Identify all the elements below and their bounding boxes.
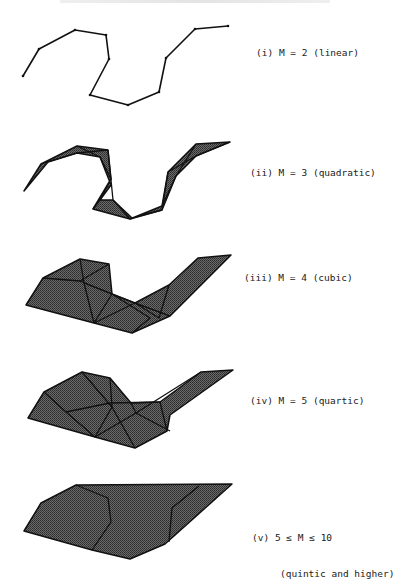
panel-quadratic-strip xyxy=(24,142,230,219)
panel-cubic-strip xyxy=(26,255,231,333)
label-quintic-and-higher: (v) 5 ≤ M ≤ 10 (quintic and higher) xyxy=(252,508,394,586)
panel-quintic-hull xyxy=(24,484,232,559)
panel-quartic-strip xyxy=(28,370,233,448)
label-linear: (i) M = 2 (linear) xyxy=(256,47,359,59)
label-cubic: (iii) M = 4 (cubic) xyxy=(244,272,353,284)
label-quartic: (iv) M = 5 (quartic) xyxy=(250,395,364,407)
label-quadratic: (ii) M = 3 (quadratic) xyxy=(250,167,376,179)
label-quintic-line1: (v) 5 ≤ M ≤ 10 xyxy=(252,532,394,544)
panel-linear-polyline xyxy=(22,25,230,107)
label-quintic-line2: (quintic and higher) xyxy=(252,568,394,580)
